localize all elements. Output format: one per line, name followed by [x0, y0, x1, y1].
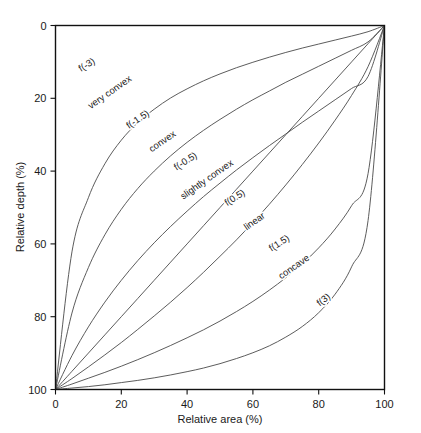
shape-label-linear: linearlinear — [242, 210, 267, 232]
x-axis-tick-labels: 020406080100 — [52, 398, 393, 410]
curve-label-f15: f(1.5)f(1.5) — [267, 232, 292, 253]
x-tick-label-100: 100 — [375, 398, 393, 410]
svg-text:f(-1.5): f(-1.5) — [124, 107, 151, 130]
shape-label-convex: convexconvex — [147, 128, 178, 154]
svg-text:very convex: very convex — [86, 73, 134, 111]
shape-label-concave: concaveconcave — [276, 252, 311, 281]
curves-group — [56, 26, 385, 390]
curve-label-f-05: f(-0.5)f(-0.5) — [172, 149, 199, 172]
curve-label-f05: f(0.5)f(0.5) — [222, 187, 247, 208]
y-tick-label-0: 0 — [40, 20, 46, 32]
svg-text:f(0.5): f(0.5) — [222, 187, 247, 208]
curve-label-f3: f(3)f(3) — [314, 291, 332, 308]
y-tick-label-40: 40 — [34, 165, 46, 177]
svg-text:convex: convex — [147, 128, 178, 154]
svg-text:f(-0.5): f(-0.5) — [172, 149, 199, 172]
curve-linear — [56, 26, 385, 390]
svg-text:concave: concave — [276, 252, 311, 281]
svg-text:linear: linear — [242, 210, 267, 232]
x-tick-label-80: 80 — [313, 398, 325, 410]
y-axis-ticks — [51, 26, 56, 390]
x-axis-ticks — [56, 390, 385, 395]
hypsometric-curve-figure: 020406080100 020406080100 f(-3)f(-3)f(-1… — [0, 0, 421, 433]
y-axis-tick-labels: 020406080100 — [28, 20, 46, 396]
shape-label-very-convex: very convexvery convex — [86, 73, 134, 111]
x-tick-label-60: 60 — [247, 398, 259, 410]
svg-text:f(1.5): f(1.5) — [267, 232, 292, 253]
svg-text:f(3): f(3) — [314, 291, 332, 308]
y-tick-label-20: 20 — [34, 92, 46, 104]
y-tick-label-100: 100 — [28, 384, 46, 396]
y-tick-label-60: 60 — [34, 238, 46, 250]
curve-label-f-15: f(-1.5)f(-1.5) — [124, 107, 151, 130]
x-tick-label-20: 20 — [115, 398, 127, 410]
svg-text:f(-3): f(-3) — [76, 55, 97, 74]
x-tick-label-40: 40 — [181, 398, 193, 410]
y-axis-title: Relative depth (%) — [14, 162, 26, 253]
x-axis-title: Relative area (%) — [178, 413, 263, 425]
chart-canvas: 020406080100 020406080100 f(-3)f(-3)f(-1… — [0, 0, 421, 433]
x-tick-label-0: 0 — [52, 398, 58, 410]
y-tick-label-80: 80 — [34, 311, 46, 323]
curve-label-f-3: f(-3)f(-3) — [76, 55, 97, 74]
